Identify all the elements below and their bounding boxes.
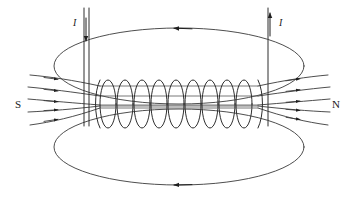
upper-field-loop [54,28,304,104]
left-field-arrows [44,78,58,122]
right-exterior-field-lines [258,75,330,125]
current-label-left: I [73,18,76,28]
current-label-right: I [279,18,282,28]
arrow-left-icon-top [174,28,192,29]
north-pole-label: N [332,99,340,110]
south-pole-label: S [15,99,21,110]
solenoid-field-diagram: S N I I [0,0,358,201]
diagram-canvas [0,0,358,201]
lower-field-loop [54,109,304,185]
